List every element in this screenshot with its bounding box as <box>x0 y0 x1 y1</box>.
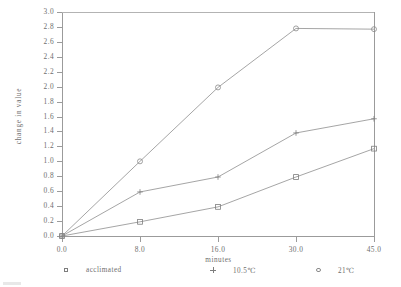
y-tick-label: 2.6 <box>44 37 54 46</box>
y-tick-label: 1.2 <box>44 141 54 150</box>
y-tick-label: 1.4 <box>44 126 54 135</box>
y-tick-label: 0.0 <box>44 231 54 240</box>
x-tick-label: 0.0 <box>57 245 67 254</box>
y-axis-label: change in value <box>15 66 23 166</box>
y-tick-label: 0.6 <box>44 186 54 195</box>
x-tick-label: 30.0 <box>289 245 304 254</box>
x-tick-mark <box>218 237 219 242</box>
y-tick-label: 0.8 <box>44 171 54 180</box>
x-tick-mark <box>296 237 297 242</box>
plot-area: 0.00.20.40.60.81.01.21.41.61.82.02.22.42… <box>62 12 375 237</box>
data-point-marker-plus <box>137 189 143 195</box>
y-tick-label: 0.2 <box>44 216 54 225</box>
y-tick-label: 1.6 <box>44 112 54 121</box>
data-point-marker-plus <box>371 116 377 122</box>
x-tick-label: 16.0 <box>211 245 226 254</box>
data-point-marker-plus <box>215 174 221 180</box>
legend-label: acclimated <box>86 266 122 274</box>
y-tick-label: 1.8 <box>44 97 54 106</box>
x-tick-label: 8.0 <box>135 245 145 254</box>
y-tick-label: 1.0 <box>44 156 54 165</box>
legend-plus-icon <box>209 265 220 276</box>
y-tick-label: 0.4 <box>44 201 54 210</box>
y-tick-label: 2.4 <box>44 52 54 61</box>
legend-item-1[interactable]: 10.5℃ <box>209 263 256 277</box>
y-tick-label: 2.2 <box>44 67 54 76</box>
y-tick-label: 3.0 <box>44 7 54 16</box>
series-line-square <box>62 149 374 236</box>
legend-label: 21℃ <box>338 266 355 275</box>
y-tick-label: 2.0 <box>44 82 54 91</box>
x-tick-mark <box>374 237 375 242</box>
series-plot <box>62 12 375 237</box>
legend-item-2[interactable]: 21℃ <box>314 263 355 277</box>
y-tick-label: 2.8 <box>44 22 54 31</box>
legend-label: 10.5℃ <box>233 266 256 275</box>
x-tick-label: 45.0 <box>367 245 382 254</box>
data-point-marker-plus <box>293 130 299 136</box>
legend-circle-icon <box>314 265 325 276</box>
legend-square-icon <box>62 265 73 276</box>
chart-legend: acclimated10.5℃21℃ <box>62 263 382 279</box>
chart-figure: change in value 0.00.20.40.60.81.01.21.4… <box>0 0 401 287</box>
scan-artifact <box>3 282 21 285</box>
legend-item-0[interactable]: acclimated <box>62 263 122 277</box>
x-tick-mark <box>140 237 141 242</box>
